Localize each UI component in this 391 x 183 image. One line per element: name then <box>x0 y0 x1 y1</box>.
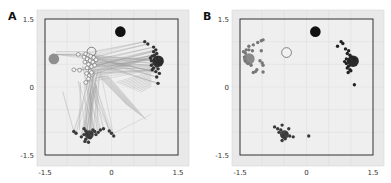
data-point <box>90 132 93 135</box>
data-point <box>280 139 283 142</box>
data-point <box>273 125 276 128</box>
data-point <box>284 137 287 140</box>
black-target-marker <box>115 26 126 37</box>
open-target-marker <box>282 48 292 58</box>
data-point <box>336 45 339 48</box>
data-point <box>87 77 91 81</box>
y-tick-label: 0 <box>225 84 229 92</box>
data-point <box>343 60 346 63</box>
data-point <box>252 71 255 74</box>
data-point <box>153 54 156 57</box>
data-point <box>84 81 88 85</box>
data-point <box>353 83 356 86</box>
data-point <box>256 41 259 44</box>
data-point <box>89 136 92 139</box>
data-point <box>82 55 86 59</box>
data-point <box>154 70 157 73</box>
data-point <box>146 42 149 45</box>
data-point <box>260 49 263 52</box>
data-point <box>155 75 158 78</box>
data-point <box>83 60 87 64</box>
data-point <box>246 62 249 65</box>
data-point <box>93 130 96 133</box>
data-point <box>83 140 86 143</box>
data-point <box>102 127 105 130</box>
panel-label: B <box>203 10 211 23</box>
gray-target-marker <box>49 54 60 65</box>
data-point <box>149 56 152 59</box>
data-point <box>72 68 76 72</box>
data-point <box>280 123 283 126</box>
data-point <box>85 66 89 70</box>
data-point <box>152 50 155 53</box>
data-point <box>78 68 82 72</box>
data-point <box>244 51 247 54</box>
data-point <box>112 134 115 137</box>
panel-b: 1.50-1.5-1.501.5B <box>203 10 384 177</box>
y-tick-label: 0 <box>30 84 34 92</box>
data-point <box>82 133 85 136</box>
data-point <box>244 59 247 62</box>
data-point <box>152 45 155 48</box>
data-point <box>87 141 90 144</box>
data-point <box>158 56 161 59</box>
data-point <box>285 132 288 135</box>
y-tick-label: -1.5 <box>20 152 34 160</box>
data-point <box>156 82 159 85</box>
data-point <box>344 47 347 50</box>
x-tick-label: 1.5 <box>172 169 183 177</box>
data-point <box>150 64 153 67</box>
data-point <box>247 48 250 51</box>
data-point <box>249 64 252 67</box>
data-point <box>158 72 161 75</box>
panel-a: 1.50-1.5-1.501.5A <box>8 10 189 177</box>
data-point <box>261 38 264 41</box>
data-point <box>277 131 280 134</box>
data-point <box>74 132 77 135</box>
data-point <box>80 135 83 138</box>
data-point <box>276 127 279 130</box>
data-point <box>261 64 264 67</box>
data-point <box>349 69 352 72</box>
data-point <box>143 40 146 43</box>
data-point <box>341 42 344 45</box>
data-point <box>261 70 264 73</box>
data-point <box>292 135 295 138</box>
data-point <box>94 58 98 62</box>
x-tick-label: -1.5 <box>233 169 247 177</box>
data-point <box>247 45 250 48</box>
x-tick-label: 1.5 <box>367 169 378 177</box>
data-point <box>110 132 113 135</box>
figure: 1.50-1.5-1.501.5A1.50-1.5-1.501.5B <box>0 0 391 183</box>
data-point <box>154 57 157 60</box>
data-point <box>93 63 97 67</box>
black-target-marker <box>310 26 321 37</box>
data-point <box>243 55 246 58</box>
data-point <box>76 52 80 56</box>
data-point <box>347 59 350 62</box>
y-tick-label: 1.5 <box>218 16 229 24</box>
x-tick-label: -1.5 <box>38 169 52 177</box>
data-point <box>252 43 255 46</box>
data-point <box>151 68 154 71</box>
data-point <box>287 127 290 130</box>
data-point <box>156 67 159 70</box>
y-tick-label: 1.5 <box>23 16 34 24</box>
data-point <box>307 134 310 137</box>
data-point <box>288 134 291 137</box>
x-tick-label: 0 <box>304 169 308 177</box>
x-tick-label: 0 <box>109 169 113 177</box>
data-point <box>97 131 100 134</box>
y-tick-label: -1.5 <box>215 152 229 160</box>
data-point <box>251 49 254 52</box>
data-point <box>90 71 94 75</box>
data-point <box>353 57 356 60</box>
panel-label: A <box>8 10 17 23</box>
